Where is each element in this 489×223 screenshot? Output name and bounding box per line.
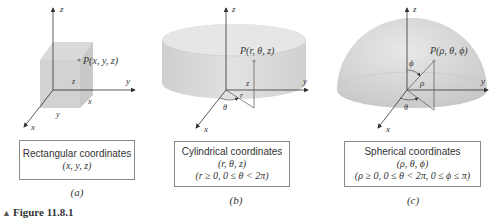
panel-c-constraints: (ρ ≥ 0, 0 ≤ θ < 2π, 0 ≤ ϕ ≤ π): [345, 170, 480, 182]
triangle-marker-icon: ▲: [2, 208, 11, 218]
point-p-c: [432, 59, 435, 62]
panel-b-label-box: Cylindrical coordinates (r, θ, z) (r ≥ 0…: [174, 141, 290, 187]
svg-text:z: z: [412, 4, 417, 14]
svg-text:z: z: [59, 4, 64, 14]
svg-text:P(r, θ, z): P(r, θ, z): [239, 45, 275, 57]
svg-text:y: y: [125, 76, 130, 86]
x-axis-a: [24, 90, 53, 127]
svg-text:ρ: ρ: [419, 78, 425, 88]
panel-c-title: Spherical coordinates: [345, 146, 480, 158]
svg-text:y: y: [480, 76, 485, 86]
panel-a-rectangular-diagram: z y x P(x, y, z) z x y: [24, 4, 135, 132]
svg-text:P(ρ, θ, ϕ): P(ρ, θ, ϕ): [429, 45, 468, 57]
panel-b-cylindrical-diagram: z y x P(r, θ, z) z r θ: [162, 4, 308, 134]
svg-text:z: z: [231, 4, 236, 14]
point-p-b: [252, 59, 255, 62]
svg-text:y: y: [55, 110, 60, 119]
panel-c-sublabel: (c): [393, 194, 433, 206]
svg-text:θ: θ: [223, 103, 227, 112]
svg-text:y: y: [302, 76, 307, 86]
svg-text:x: x: [203, 124, 208, 134]
panel-a-title: Rectangular coordinates: [20, 148, 134, 160]
figure-caption: ▲Figure 11.8.1: [2, 206, 74, 218]
panel-a-sublabel: (a): [57, 186, 97, 198]
panel-a-coords: (x, y, z): [20, 160, 134, 172]
panel-c-spherical-diagram: z y x P(ρ, θ, ϕ) ϕ ρ θ: [337, 4, 488, 134]
svg-text:x: x: [87, 97, 92, 106]
point-p-a: [77, 58, 80, 61]
svg-text:P(x, y, z): P(x, y, z): [82, 55, 119, 67]
figure-caption-text: Figure 11.8.1: [13, 206, 74, 218]
svg-text:θ: θ: [404, 103, 408, 112]
panel-b-title: Cylindrical coordinates: [175, 146, 289, 158]
panel-c-label-box: Spherical coordinates (ρ, θ, ϕ) (ρ ≥ 0, …: [344, 141, 481, 187]
panel-a-label-box: Rectangular coordinates (x, y, z): [19, 140, 135, 180]
panel-b-constraints: (r ≥ 0, 0 ≤ θ < 2π): [175, 170, 289, 182]
panel-c-coords: (ρ, θ, ϕ): [345, 158, 480, 170]
panel-b-coords: (r, θ, z): [175, 158, 289, 170]
svg-text:ϕ: ϕ: [409, 58, 414, 68]
svg-text:x: x: [385, 124, 390, 134]
panel-b-sublabel: (b): [216, 194, 256, 206]
svg-text:x: x: [30, 122, 35, 132]
